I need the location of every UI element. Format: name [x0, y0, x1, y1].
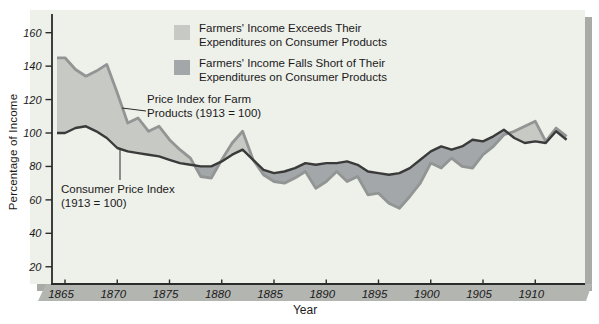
x-tick-label: 1895 — [362, 288, 388, 300]
y-tick-label: 100 — [23, 127, 42, 139]
y-tick-label: 80 — [29, 160, 42, 172]
y-axis-title: Percentage of Income — [7, 82, 19, 222]
y-tick-label: 20 — [28, 261, 42, 273]
y-tick-label: 160 — [23, 27, 42, 39]
legend-item-falls-short: Farmers' Income Falls Short of Their Exp… — [174, 56, 387, 84]
legend-falls-short-label: Farmers' Income Falls Short of Their Exp… — [199, 56, 387, 84]
farm-label-leader-line — [122, 108, 146, 111]
x-tick-label: 1865 — [48, 288, 74, 300]
cpi-annotation-line2: (1913 = 100) — [61, 197, 127, 209]
x-tick-label: 1880 — [205, 288, 231, 300]
legend-swatch-exceeds-icon — [174, 25, 190, 40]
x-tick-label: 1875 — [153, 288, 179, 300]
x-tick-label: 1885 — [257, 288, 283, 300]
legend-exceeds-label: Farmers' Income Exceeds Their Expenditur… — [199, 21, 387, 49]
cpi-annotation: Consumer Price Index (1913 = 100) — [61, 182, 175, 210]
farm-index-annotation-line2: Products (1913 = 100) — [147, 107, 261, 119]
legend-exceeds-line2: Expenditures on Consumer Products — [199, 36, 387, 48]
x-tick-label: 1910 — [518, 288, 544, 300]
y-tick-label: 60 — [29, 194, 42, 206]
x-tick-label: 1900 — [414, 288, 440, 300]
x-tick-label: 1890 — [309, 288, 335, 300]
legend: Farmers' Income Exceeds Their Expenditur… — [174, 21, 387, 91]
figure-root: 2040608010012014016018651870187518801885… — [0, 0, 599, 324]
legend-exceeds-line1: Farmers' Income Exceeds Their — [199, 22, 361, 34]
x-tick-label: 1905 — [466, 288, 492, 300]
y-tick-label: 120 — [23, 94, 42, 106]
legend-falls-short-line1: Farmers' Income Falls Short of Their — [199, 57, 385, 69]
y-tick-label: 40 — [29, 227, 42, 239]
cpi-annotation-line1: Consumer Price Index — [61, 183, 175, 195]
farm-index-annotation: Price Index for Farm Products (1913 = 10… — [147, 92, 261, 120]
y-tick-label: 140 — [23, 60, 42, 72]
farm-index-annotation-line1: Price Index for Farm — [147, 93, 251, 105]
legend-swatch-falls-short-icon — [174, 60, 190, 75]
legend-falls-short-line2: Expenditures on Consumer Products — [199, 71, 387, 83]
x-tick-label: 1870 — [100, 288, 126, 300]
legend-item-exceeds: Farmers' Income Exceeds Their Expenditur… — [174, 21, 387, 49]
x-axis-title: Year — [255, 303, 355, 317]
